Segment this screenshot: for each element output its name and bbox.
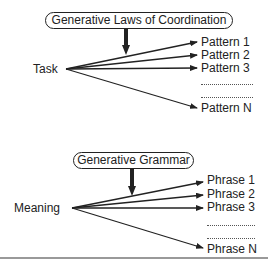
generative-grammar-box: Generative Grammar [73,152,194,169]
phrase-3-label: Phrase 3 [207,201,255,214]
phrase-1-label: Phrase 1 [207,174,255,187]
bottom-divider [0,257,268,259]
phrase-ellipsis-2 [207,238,255,239]
generative-laws-label: Generative Laws of Coordination [52,14,227,27]
pattern-ellipsis-2 [201,97,253,98]
phrase-n-label: Phrase N [207,243,257,256]
pattern-3-label: Pattern 3 [201,62,250,75]
bottom-fan-arrows [72,182,203,248]
phrase-ellipsis-1 [207,225,255,226]
top-fan-arrows [66,42,197,108]
meaning-label: Meaning [14,202,60,215]
task-label: Task [33,63,58,76]
pattern-ellipsis-1 [201,84,253,85]
pattern-n-label: Pattern N [201,102,252,115]
generative-grammar-label: Generative Grammar [77,154,190,167]
generative-laws-box: Generative Laws of Coordination [45,12,233,29]
